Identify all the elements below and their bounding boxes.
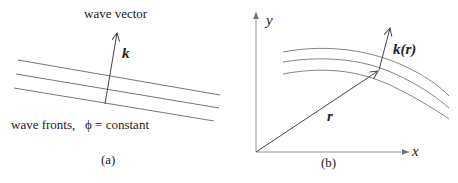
wavefront-label: wave fronts, ϕ = constant xyxy=(11,117,149,133)
r-vector-label: r xyxy=(327,108,333,125)
panel-a-wavefronts xyxy=(14,60,220,121)
y-axis-label: y xyxy=(266,12,273,29)
curved-wavefront-3 xyxy=(283,70,449,119)
k-vector-label: k xyxy=(122,45,130,62)
panel-b-label: (b) xyxy=(321,155,336,171)
wavefront-line-1 xyxy=(18,60,220,95)
position-vector-r-arrow xyxy=(256,71,378,152)
panel-a-label: (a) xyxy=(101,152,115,168)
x-axis-label: x xyxy=(412,143,419,160)
wave-vector-title: wave vector xyxy=(84,6,147,22)
panel-b-wavefronts xyxy=(283,48,449,119)
k-of-r-label: k(r) xyxy=(393,41,416,58)
wavefront-line-2 xyxy=(16,74,219,108)
curved-wavefront-2 xyxy=(283,59,449,108)
wave-vector-k-of-r-arrow xyxy=(379,28,390,70)
wave-vector-diagram xyxy=(0,0,458,183)
wave-vector-k-arrow xyxy=(105,33,117,104)
